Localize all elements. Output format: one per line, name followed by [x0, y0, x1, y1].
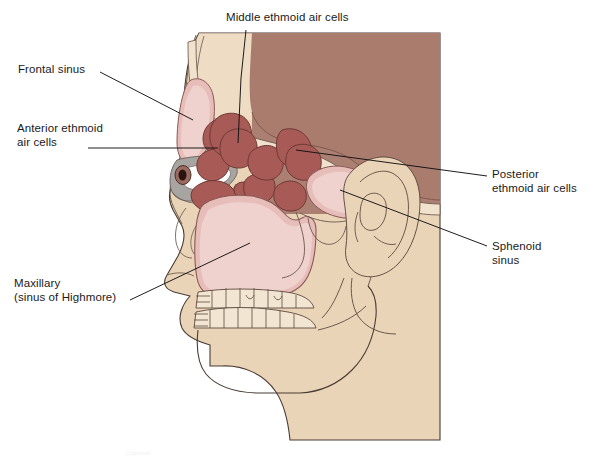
label-line-2: sinus [492, 254, 519, 266]
pupil [179, 170, 187, 181]
label-line-1: Maxillary [14, 277, 60, 289]
label-line-1: Anterior ethmoid [17, 122, 103, 134]
figure-credit-text: Lippincott [126, 447, 150, 459]
label-anterior-ethmoid-air-cells: Anterior ethmoidair cells [17, 122, 103, 149]
label-posterior-ethmoid-air-cells: Posteriorethmoid air cells [492, 168, 577, 195]
sinus-anatomy-diagram [0, 0, 600, 459]
dental-arches [194, 288, 316, 328]
label-middle-ethmoid-air-cells: Middle ethmoid air cells [226, 11, 349, 25]
label-line-2: ethmoid air cells [492, 182, 577, 194]
label-line-2: (sinus of Highmore) [14, 291, 116, 303]
label-maxillary-sinus: Maxillary(sinus of Highmore) [14, 277, 116, 304]
leader-frontal-sinus [100, 72, 193, 120]
label-line-1: Posterior [492, 168, 539, 180]
label-line-2: air cells [17, 136, 57, 148]
label-frontal-sinus: Frontal sinus [18, 63, 85, 77]
label-line-1: Sphenoid [492, 240, 541, 252]
label-sphenoid-sinus: Sphenoidsinus [492, 240, 541, 267]
